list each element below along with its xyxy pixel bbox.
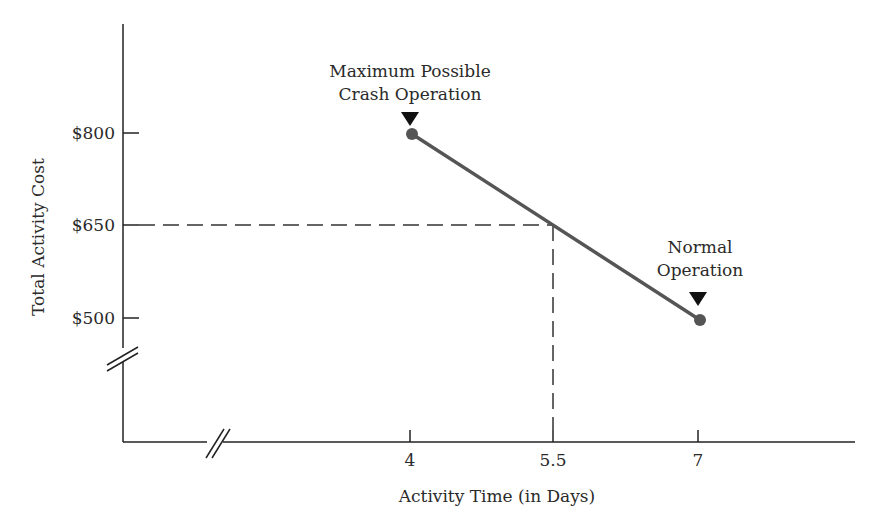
x-tick-label-5-5: 5.5: [539, 450, 566, 470]
y-axis-title: Total Activity Cost: [28, 158, 48, 316]
y-tick-label-500: $500: [72, 308, 115, 328]
y-tick-label-650: $650: [72, 215, 115, 235]
x-ticks: [410, 430, 698, 442]
normal-point-marker: [694, 314, 706, 326]
x-tick-label-7: 7: [693, 450, 704, 470]
y-ticks: [123, 133, 139, 318]
crash-annotation-line2: Crash Operation: [339, 84, 482, 104]
normal-arrow-icon: [689, 292, 707, 306]
crash-annotation-line1: Maximum Possible: [329, 61, 490, 81]
cost-time-chart: $800 $650 $500 4 5.5 7 Activity Time (in…: [0, 0, 880, 531]
reference-dashed-lines: [139, 225, 553, 430]
y-tick-label-800: $800: [72, 123, 115, 143]
crash-arrow-icon: [401, 112, 419, 126]
x-axis-title: Activity Time (in Days): [398, 486, 595, 506]
normal-annotation-line1: Normal: [668, 237, 733, 257]
x-axis-break-icon: [206, 429, 230, 458]
crash-point-marker: [406, 128, 418, 140]
cost-time-line: [412, 134, 700, 320]
x-tick-label-4: 4: [405, 450, 416, 470]
normal-annotation-line2: Operation: [657, 260, 744, 280]
